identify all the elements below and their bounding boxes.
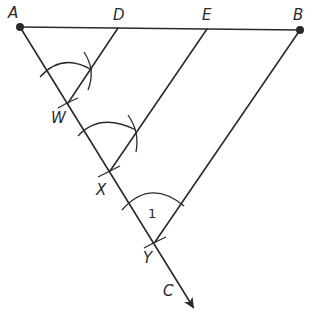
- segment-dw: [68, 28, 118, 103]
- label-b: B: [293, 6, 303, 24]
- ray-ac: [20, 27, 193, 307]
- intersect-arc-x: [128, 115, 137, 152]
- label-e: E: [202, 6, 212, 24]
- construction-arc-w: [40, 62, 92, 77]
- label-y: Y: [143, 249, 154, 267]
- point-b-dot: [296, 26, 304, 34]
- segment-ab: [20, 27, 300, 30]
- angle-1-label: 1: [148, 206, 156, 221]
- point-a-dot: [16, 23, 24, 31]
- tick-arc-x: [98, 166, 120, 177]
- label-c: C: [163, 282, 174, 300]
- segment-by: [155, 30, 300, 242]
- label-d: D: [113, 6, 125, 24]
- label-a: A: [7, 4, 18, 22]
- construction-diagram: A D E B W X Y C 1: [0, 0, 316, 333]
- segment-ex: [110, 29, 207, 171]
- label-w: W: [51, 109, 67, 127]
- label-x: X: [95, 181, 107, 199]
- tick-arc-w: [58, 98, 78, 108]
